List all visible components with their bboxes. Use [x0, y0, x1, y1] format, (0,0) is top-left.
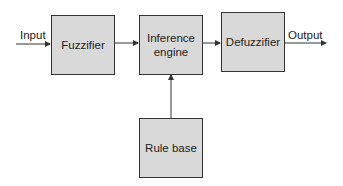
fuzzifier-label: Fuzzifier [61, 38, 104, 52]
fuzzifier-block: Fuzzifier [51, 15, 115, 75]
inference-engine-label-line1: Inference [147, 31, 195, 45]
output-label: Output [288, 29, 323, 41]
input-label: Input [20, 29, 46, 41]
inference-engine-label-line2: engine [154, 45, 189, 59]
rule-base-block: Rule base [139, 118, 203, 178]
inference-engine-block: Inference engine [139, 15, 203, 75]
rule-base-label: Rule base [145, 141, 197, 155]
defuzzifier-label: Defuzzifier [226, 35, 280, 49]
defuzzifier-block: Defuzzifier [221, 12, 285, 72]
